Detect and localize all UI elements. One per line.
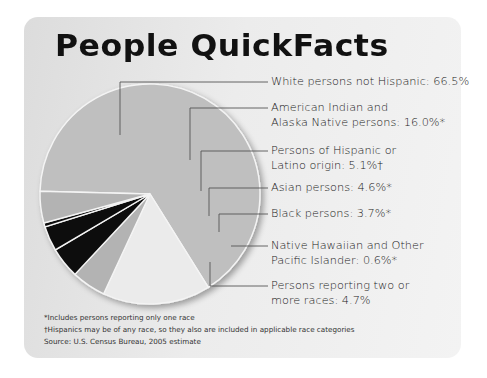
label-two-races-line2: more races: 4.7% xyxy=(271,293,371,308)
footnote-source: Source: U.S. Census Bureau, 2005 estimat… xyxy=(44,337,201,346)
label-hispanic-line2: Latino origin: 5.1%† xyxy=(271,158,383,173)
label-nhpi-line2: Pacific Islander: 0.6%* xyxy=(271,253,397,268)
pie-slices xyxy=(40,84,260,304)
label-aian-line2: Alaska Native persons: 16.0%* xyxy=(271,115,445,130)
footnote-hispanics: †Hispanics may be of any race, so they a… xyxy=(44,325,355,334)
label-black: Black persons: 3.7%* xyxy=(271,206,391,221)
label-white: White persons not Hispanic: 66.5% xyxy=(271,74,469,89)
label-hispanic-line1: Persons of Hispanic or xyxy=(271,143,396,158)
label-asian: Asian persons: 4.6%* xyxy=(271,180,392,195)
label-nhpi-line1: Native Hawaiian and Other xyxy=(271,238,424,253)
footnote-one-race: *Includes persons reporting only one rac… xyxy=(44,313,195,322)
label-aian-line1: American Indian and xyxy=(271,100,388,115)
label-two-races-line1: Persons reporting two or xyxy=(271,278,409,293)
